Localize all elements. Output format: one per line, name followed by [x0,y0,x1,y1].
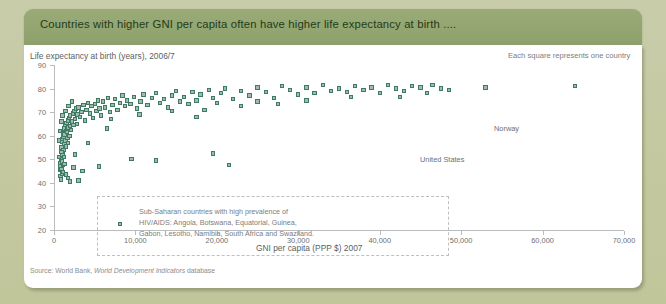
data-point [88,111,92,115]
data-point [123,104,127,108]
data-point [66,104,70,108]
data-point [378,91,382,95]
data-point [223,86,227,90]
data-point [247,93,251,97]
data-point [86,141,90,145]
data-point [108,110,112,114]
data-point [337,86,341,90]
data-point [61,170,65,174]
data-point [255,85,259,89]
data-point [194,98,198,102]
page-title: Countries with higher GNI per capita oft… [40,18,456,30]
data-point [115,108,119,112]
y-tick-label: 40 [26,179,46,188]
data-point [58,129,62,133]
data-point [59,119,63,123]
chart-card: Life expectancy at birth (years), 2006/7… [24,45,642,288]
data-point [154,158,158,162]
data-point [202,108,206,112]
data-point [135,106,139,110]
data-point [386,83,390,87]
y-tick-label: 60 [26,132,46,141]
data-point [227,163,231,167]
data-point [63,109,67,113]
data-point [145,103,149,107]
annotation-line-1: Sub-Saharan countries with high prevalen… [139,206,439,217]
data-point [132,95,136,99]
data-point [483,85,487,89]
data-point [67,134,71,138]
data-point [96,98,100,102]
data-point [97,164,101,168]
data-point [73,117,77,121]
data-point [190,90,194,94]
data-point [79,110,83,114]
y-tick-label: 20 [26,226,46,235]
annotation-marker-icon [118,222,122,226]
data-point [369,85,373,89]
y-tick-label: 30 [26,202,46,211]
data-point [68,179,72,183]
data-point [288,88,292,92]
data-point [99,113,103,117]
data-point [75,122,79,126]
data-point [255,99,259,103]
data-point [215,101,219,105]
data-point [106,96,110,100]
data-point [60,113,64,117]
data-point [272,96,276,100]
data-point [138,99,142,103]
x-tick-mark [543,231,544,235]
data-point [296,92,300,96]
data-point [141,92,145,96]
callout-united-states: United States [420,155,464,164]
y-tick-mark [50,89,54,90]
data-point [211,151,215,155]
data-point [304,85,308,89]
data-point [425,91,429,95]
data-point [76,178,80,182]
data-point [198,92,202,96]
data-point [178,99,182,103]
data-point [59,177,63,181]
data-point [62,162,66,166]
data-point [162,97,166,101]
data-point [70,99,74,103]
x-tick-mark [461,231,462,235]
data-point [109,117,113,121]
data-point [182,95,186,99]
data-point [97,106,101,110]
data-point [71,165,75,169]
data-point [239,89,243,93]
x-tick-label: 70,000 [604,236,644,245]
x-tick-mark [54,231,55,235]
data-point [349,95,353,99]
x-tick-label: 60,000 [523,236,563,245]
data-point [80,169,84,173]
y-tick-mark [50,112,54,113]
data-point [402,89,406,93]
data-point [398,95,402,99]
data-point [59,150,63,154]
source-italic: World Development Indicators [94,267,185,274]
data-point [170,109,174,113]
data-point [410,84,414,88]
x-tick-label: 0 [34,236,74,245]
y-axis-label: Life expectancy at birth (years), 2006/7 [30,51,175,61]
data-point [113,97,117,101]
source-prefix: Source: World Bank, [30,267,94,274]
data-point [105,126,109,130]
data-point [128,102,132,106]
data-point [361,88,365,92]
data-point [186,102,190,106]
data-point [304,98,308,102]
data-point [219,91,223,95]
x-tick-mark [624,231,625,235]
data-point [239,104,243,108]
data-point [573,84,577,88]
source-suffix: database [185,267,215,274]
data-point [110,103,114,107]
y-tick-mark [50,159,54,160]
data-point [69,128,73,132]
data-point [150,96,154,100]
